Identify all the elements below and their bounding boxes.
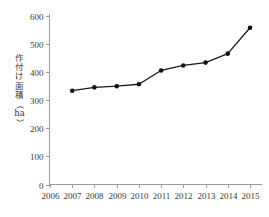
data-point xyxy=(203,60,208,65)
data-point xyxy=(70,88,75,93)
data-point xyxy=(114,84,119,89)
x-tick-label: 2007 xyxy=(64,191,83,201)
chart-figure: 作 付 け 面 積 （ ha ） 0100200300400500600 200… xyxy=(0,0,269,217)
x-tick-label: 2014 xyxy=(220,191,239,201)
y-tick-label: 400 xyxy=(30,68,44,78)
data-point xyxy=(225,51,230,56)
y-axis-ticks: 0100200300400500600 xyxy=(30,12,50,191)
data-point xyxy=(181,63,186,68)
x-tick-label: 2015 xyxy=(242,191,261,201)
y-tick-label: 200 xyxy=(30,124,44,134)
data-point xyxy=(92,85,97,90)
x-tick-label: 2013 xyxy=(198,191,217,201)
data-series xyxy=(70,25,252,93)
data-point xyxy=(137,82,142,87)
y-tick-label: 500 xyxy=(30,40,44,50)
x-tick-label: 2011 xyxy=(153,191,171,201)
x-tick-label: 2008 xyxy=(86,191,105,201)
x-tick-label: 2009 xyxy=(109,191,128,201)
y-tick-label: 100 xyxy=(30,152,44,162)
x-tick-label: 2010 xyxy=(131,191,150,201)
axes xyxy=(50,14,263,185)
x-axis-ticks: 2006200720082009201020112012201320142015 xyxy=(42,185,261,201)
series-line-planted-area xyxy=(72,28,250,91)
data-point xyxy=(248,25,253,30)
x-tick-label: 2006 xyxy=(42,191,61,201)
y-tick-label: 0 xyxy=(39,181,44,191)
series-markers xyxy=(70,25,252,93)
chart-plot-area: 0100200300400500600 20062007200820092010… xyxy=(0,0,269,217)
data-point xyxy=(159,68,164,73)
x-tick-label: 2012 xyxy=(175,191,193,201)
y-tick-label: 300 xyxy=(30,96,44,106)
y-tick-label: 600 xyxy=(30,12,44,22)
